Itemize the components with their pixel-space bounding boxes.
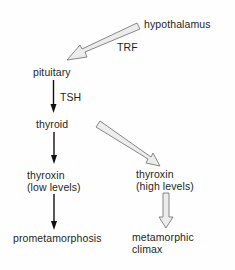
node-thyroxin-low-line2: (low levels) xyxy=(27,181,81,193)
high-to-climax-block-arrow xyxy=(159,193,173,228)
thyroid-to-high-block-arrow xyxy=(96,121,160,166)
node-thyroid: thyroid xyxy=(36,118,68,130)
node-thyroxin-high-line1: thyroxin xyxy=(136,168,174,180)
node-thyroxin-low-line1: thyroxin xyxy=(27,169,65,181)
node-prometamorphosis: prometamorphosis xyxy=(13,232,102,244)
node-metamorphic-climax-line1: metamorphic xyxy=(132,231,194,243)
node-hypothalamus: hypothalamus xyxy=(144,18,211,30)
thyroid-regulation-diagram: hypothalamus TRF pituitary TSH thyroid t… xyxy=(0,0,235,270)
edge-label-tsh: TSH xyxy=(60,91,81,103)
node-metamorphic-climax-line2: climax xyxy=(132,243,162,255)
node-thyroxin-high-line2: (high levels) xyxy=(136,180,194,192)
thyroid-to-low-arrow xyxy=(51,132,57,164)
tsh-line-arrow xyxy=(51,80,57,113)
node-pituitary: pituitary xyxy=(33,66,71,78)
low-to-prometamorphosis-arrow xyxy=(51,194,57,230)
edge-label-trf: TRF xyxy=(117,41,138,53)
